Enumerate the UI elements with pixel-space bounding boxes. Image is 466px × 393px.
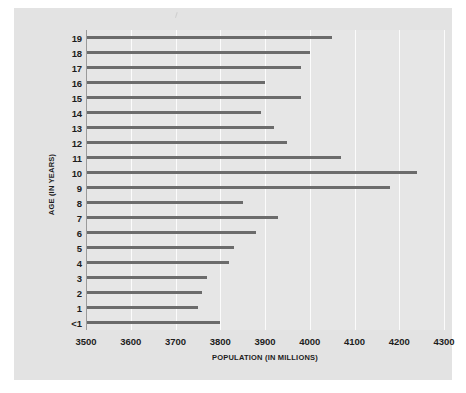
bar-row [86, 225, 256, 240]
x-tick-label-3700: 3700 [165, 336, 186, 347]
y-axis-title-wrap: AGE (IN YEARS) [36, 30, 56, 330]
bar-age-3 [86, 276, 207, 279]
stray-mark-icon [168, 10, 177, 18]
bar-row [86, 30, 332, 45]
bar-row [86, 150, 341, 165]
x-tick-label-4000: 4000 [299, 336, 320, 347]
bar-age-15 [86, 96, 301, 99]
x-tick-label-4300: 4300 [433, 336, 454, 347]
x-axis-tick-labels: 350036003700380039004000410042004300 [86, 336, 444, 350]
bar-age-18 [86, 51, 310, 54]
gridline-4300 [444, 30, 445, 330]
bar-row [86, 90, 301, 105]
bar-age-2 [86, 291, 202, 294]
bar-age-7 [86, 216, 278, 219]
bar-age-16 [86, 81, 265, 84]
x-axis-title: POPULATION (IN MILLIONS) [86, 353, 444, 362]
x-tick-label-3900: 3900 [254, 336, 275, 347]
bar-age-17 [86, 66, 301, 69]
bar-row [86, 315, 220, 330]
bar-row [86, 195, 243, 210]
x-tick-label-4100: 4100 [344, 336, 365, 347]
bar-age-8 [86, 201, 243, 204]
bar-row [86, 75, 265, 90]
y-axis-title: AGE (IN YEARS) [47, 120, 56, 250]
x-tick-label-3600: 3600 [120, 336, 141, 347]
bar-row [86, 270, 207, 285]
bar-row [86, 255, 229, 270]
bar-age-19 [86, 36, 332, 39]
bar-row [86, 45, 310, 60]
bar-row [86, 210, 278, 225]
bar-age-5 [86, 246, 234, 249]
y-axis-line [86, 30, 87, 330]
bar-age-10 [86, 171, 417, 174]
bar-age-9 [86, 186, 390, 189]
plot-area [86, 30, 444, 330]
bar-age-14 [86, 111, 261, 114]
x-tick-label-3800: 3800 [210, 336, 231, 347]
bar-row [86, 300, 198, 315]
x-tick-label-4200: 4200 [389, 336, 410, 347]
bar-row [86, 165, 417, 180]
x-tick-label-3500: 3500 [75, 336, 96, 347]
figure-panel: 19181716151413121110987654321<1 35003600… [14, 8, 452, 380]
bar-age-13 [86, 126, 274, 129]
bar-row [86, 120, 274, 135]
bar-age-4 [86, 261, 229, 264]
bar-row [86, 285, 202, 300]
bar-row [86, 240, 234, 255]
population-by-age-bar-chart: 19181716151413121110987654321<1 35003600… [0, 0, 466, 393]
bar-age-<1 [86, 321, 220, 324]
bar-row [86, 135, 287, 150]
bar-age-6 [86, 231, 256, 234]
bar-age-12 [86, 141, 287, 144]
bar-row [86, 105, 261, 120]
bars-layer [86, 30, 444, 330]
bar-row [86, 180, 390, 195]
bar-age-11 [86, 156, 341, 159]
bar-age-1 [86, 306, 198, 309]
bar-row [86, 60, 301, 75]
